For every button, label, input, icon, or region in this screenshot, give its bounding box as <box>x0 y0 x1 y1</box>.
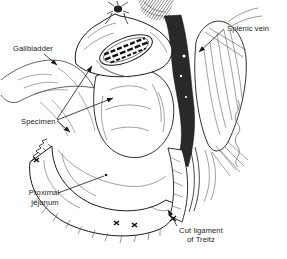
line-art-canvas: Gallbladder Specimen Splenic vein Proxim… <box>0 0 287 259</box>
vein-lumen-dot <box>185 96 187 98</box>
leader-line-specimen-3 <box>57 121 70 132</box>
leader-line-gallbladder <box>44 54 57 65</box>
vein-lumen-dot <box>182 54 185 57</box>
label-cut-ligament-line2: of Treitz <box>187 235 215 244</box>
retracted-tissue-leaf <box>195 8 262 176</box>
specimen-body-shape <box>94 69 174 158</box>
leader-line-specimen-1 <box>57 66 92 119</box>
surgical-illustration-figure: Gallbladder Specimen Splenic vein Proxim… <box>0 0 287 259</box>
label-specimen: Specimen <box>21 117 56 126</box>
label-cut-ligament-line1: Cut ligament <box>179 226 224 235</box>
ligament-strap-shapes <box>168 147 216 222</box>
label-splenic-vein: Splenic vein <box>227 24 269 33</box>
vein-lumen-dot <box>180 75 182 77</box>
label-gallbladder: Gallbladder <box>13 44 53 53</box>
label-proximal-jejunum-line2: jejunum <box>30 198 58 207</box>
leader-dot-proximal-jejunum <box>105 174 108 177</box>
label-proximal-jejunum-line1: Proximal <box>29 188 60 197</box>
